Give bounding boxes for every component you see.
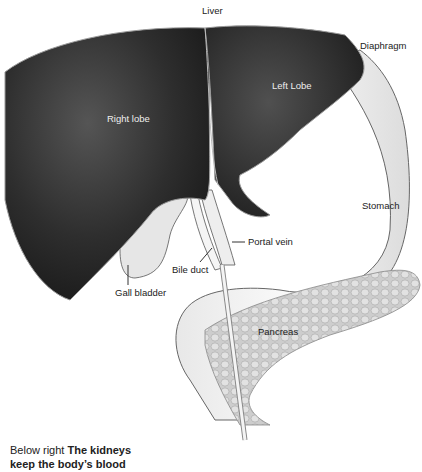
liver-anatomy-illustration bbox=[0, 0, 422, 472]
caption-prefix: Below right bbox=[10, 444, 64, 456]
label-pancreas: Pancreas bbox=[258, 326, 298, 337]
caption-bold-line1: The kidneys bbox=[67, 444, 131, 456]
label-right-lobe: Right lobe bbox=[107, 113, 150, 124]
label-left-lobe: Left Lobe bbox=[272, 80, 312, 91]
label-bile-duct: Bile duct bbox=[172, 264, 208, 275]
label-gall-bladder: Gall bladder bbox=[115, 287, 166, 298]
left-lobe-shape bbox=[205, 26, 364, 217]
label-stomach: Stomach bbox=[362, 200, 400, 211]
label-liver: Liver bbox=[202, 5, 223, 16]
right-lobe-shape bbox=[5, 28, 212, 300]
caption-bold-line2: keep the body’s blood bbox=[10, 458, 126, 470]
figure-caption: Below right The kidneys keep the body’s … bbox=[10, 443, 131, 471]
label-portal-vein: Portal vein bbox=[248, 236, 293, 247]
label-diaphragm: Diaphragm bbox=[360, 40, 406, 51]
